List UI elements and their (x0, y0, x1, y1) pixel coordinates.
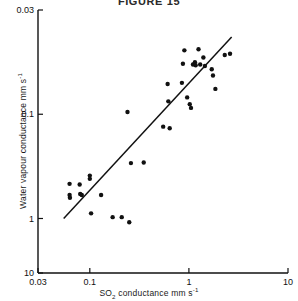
y-axis-title-prefix: Water vapour conductance mm s (18, 79, 28, 209)
x-axis-title-sup: -1 (193, 286, 199, 293)
y-axis-title: Water vapour conductance mm s-1 (16, 26, 28, 256)
tick-labels: 0.030.11101010.10.03 (16, 5, 293, 287)
svg-text:0.03: 0.03 (16, 5, 34, 15)
x-axis-title: SO2 conductance mm s-1 (0, 286, 298, 300)
x-axis-title-suffix: conductance mm s (116, 288, 193, 298)
figure-container: FIGURE 15 0.030.11101010.10.03 SO2 condu… (0, 0, 298, 301)
axis-ticks (38, 10, 288, 273)
y-axis-title-sup: -1 (16, 73, 23, 79)
scatter-plot: 0.030.11101010.10.03 (0, 0, 298, 301)
data-points (67, 47, 232, 224)
svg-text:10: 10 (24, 268, 34, 278)
plot-frame (38, 10, 288, 273)
regression-line (64, 37, 232, 218)
svg-text:1: 1 (29, 214, 34, 224)
x-axis-title-prefix: SO (99, 288, 112, 298)
